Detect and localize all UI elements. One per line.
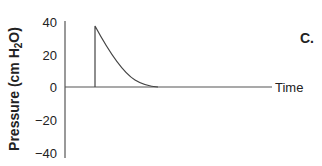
- y-tick-20: 20: [43, 48, 57, 63]
- y-tick-neg40: −40: [35, 146, 57, 161]
- y-axis-title: Pressure (cm H2O): [6, 27, 24, 151]
- x-axis-title: Time: [275, 80, 303, 95]
- y-tick-40: 40: [43, 15, 57, 30]
- y-tick-neg20: −20: [35, 113, 57, 128]
- y-tick-0: 0: [50, 80, 57, 95]
- pressure-time-chart: Pressure (cm H2O) 40 20 0 −20 −40 Time C…: [0, 0, 322, 166]
- y-tick-labels: 40 20 0 −20 −40: [35, 15, 57, 161]
- pressure-waveform: [95, 26, 158, 87]
- panel-label: C.: [300, 30, 314, 46]
